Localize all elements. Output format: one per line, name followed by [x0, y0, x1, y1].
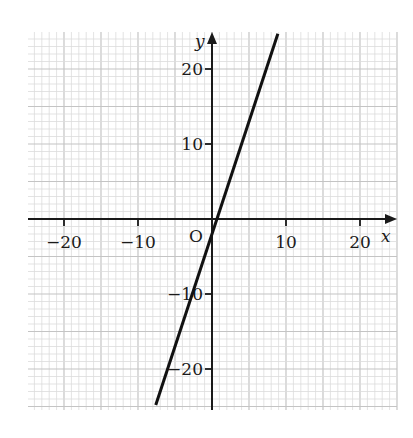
- chart-canvas: −20−101020−20−101020 x y O: [0, 0, 413, 438]
- y-axis-arrow-icon: [207, 32, 217, 44]
- axes: [28, 32, 397, 410]
- y-tick-label: −20: [167, 359, 203, 379]
- x-axis-arrow-icon: [385, 214, 397, 224]
- y-tick-label: −10: [167, 284, 203, 304]
- x-axis-label: x: [381, 226, 391, 246]
- x-tick-label: −10: [120, 232, 156, 252]
- y-axis-label: y: [194, 31, 205, 51]
- origin-label: O: [189, 226, 203, 246]
- x-tick-label: −20: [46, 232, 82, 252]
- x-tick-label: 20: [349, 232, 371, 252]
- x-tick-label: 10: [275, 232, 297, 252]
- y-tick-label: 10: [181, 134, 203, 154]
- y-tick-label: 20: [181, 59, 203, 79]
